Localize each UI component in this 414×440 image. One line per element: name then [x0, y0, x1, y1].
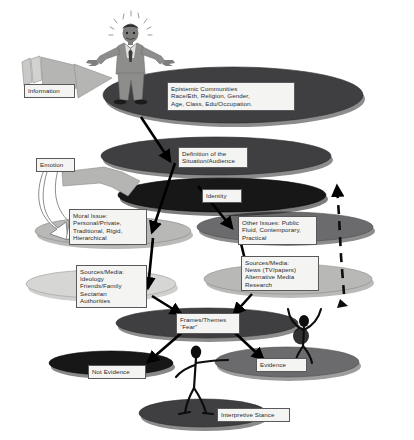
layer-label-sources-media-news[interactable]: Sources/Media: News (TV/papers) Alternat… [241, 256, 319, 291]
layer-label-identity[interactable]: Identity [202, 189, 242, 203]
layer-label-definition-of-situation[interactable]: Definition of the Situation/Audience [178, 147, 248, 168]
layer-label-sources-media-ideology[interactable]: Sources/Media: Ideology Friends/Family S… [76, 265, 147, 308]
diagram-canvas: Information Emotion Epistemic Communitie… [0, 0, 414, 440]
layer-label-evidence[interactable]: Evidence [256, 358, 307, 372]
layer-label-not-evidence[interactable]: Not Evidence [88, 365, 146, 379]
layer-label-frames-themes[interactable]: Frames/Themes “Fear” [176, 313, 240, 334]
layer-label-moral-issue[interactable]: Moral Issue: Personal/Private, Tradition… [69, 209, 147, 245]
layer-label-other-issues[interactable]: Other Issues: Public Fluid, Contemporary… [238, 216, 317, 245]
diagram-graphics [0, 0, 414, 440]
layer-label-interpretive-stance[interactable]: Interpretive Stance [217, 408, 290, 422]
layer-label-epistemic-communities[interactable]: Epistemic Communities Race/Eth, Religion… [167, 82, 295, 111]
input-label-information[interactable]: Information [24, 84, 75, 98]
input-label-emotion[interactable]: Emotion [36, 158, 75, 172]
